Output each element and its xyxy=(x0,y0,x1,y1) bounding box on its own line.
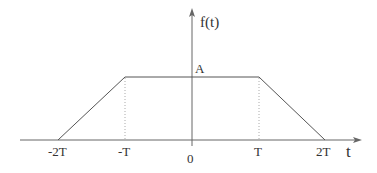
t-axis xyxy=(20,137,362,143)
y-axis-label: f(t) xyxy=(200,14,219,31)
tick-label-minus-T: -T xyxy=(118,144,130,159)
trapezoid-pulse-diagram: f(t) A -2T -T 0 T 2T t xyxy=(0,0,377,173)
tick-label-2T: 2T xyxy=(316,144,331,159)
tick-label-T: T xyxy=(254,144,262,159)
amplitude-label: A xyxy=(195,61,205,76)
tick-label-minus-2T: -2T xyxy=(48,144,67,159)
x-axis-label: t xyxy=(346,142,351,161)
origin-label: 0 xyxy=(187,151,194,166)
